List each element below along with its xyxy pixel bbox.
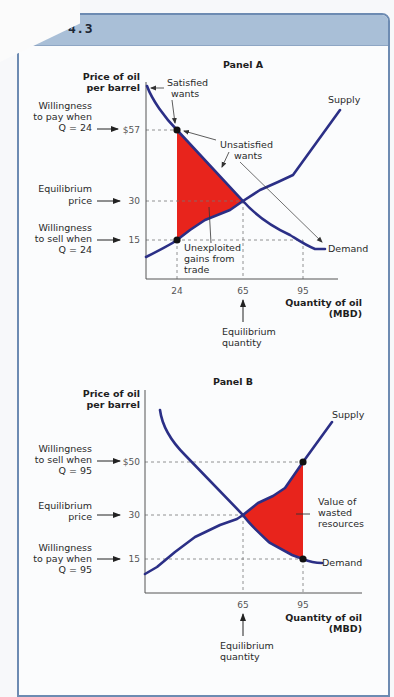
tick-y-15: 15	[129, 554, 140, 564]
tick-y-15: 15	[129, 235, 140, 245]
unsatisfied-label-2: wants	[234, 150, 262, 161]
wasted-label-2: wasted	[318, 507, 352, 518]
y-axis-label-2: per barrel	[86, 399, 140, 410]
wtp-label-3: Q = 24	[58, 122, 92, 133]
wtp-point	[173, 126, 180, 133]
supply-label: Supply	[328, 94, 361, 105]
wtp-label-3: Q = 95	[58, 564, 92, 575]
demand-label: Demand	[328, 243, 368, 254]
wts-label-2: to sell when	[35, 233, 92, 244]
tick-x-65: 65	[237, 600, 248, 610]
eqq-label-2: quantity	[220, 651, 260, 662]
unexploited-label-1: Unexploited	[184, 242, 241, 253]
x-axis-label-2: (MBD)	[329, 623, 362, 634]
unsatisfied-label-1: Unsatisfied	[220, 139, 273, 150]
tick-y-30: 30	[129, 510, 141, 520]
wts-label-1: Willingness	[38, 443, 92, 454]
wtp-label-2: to pay when	[33, 111, 92, 122]
tick-y-30: 30	[129, 196, 141, 206]
eqq-label-2: quantity	[222, 337, 262, 348]
unsatisfied-arrow-icon	[184, 131, 216, 140]
wtp-label-1: Willingness	[38, 542, 92, 553]
wts-label-2: to sell when	[35, 454, 92, 465]
wts-label-1: Willingness	[38, 222, 92, 233]
eqq-label-1: Equilibrium	[220, 640, 274, 651]
eqp-label-1: Equilibrium	[38, 183, 92, 194]
panel-b-title: Panel B	[213, 376, 253, 387]
wtp-label-1: Willingness	[38, 100, 92, 111]
panel-a: Panel A Price of oil per barrel Quantity…	[33, 59, 368, 348]
tick-x-95: 95	[297, 286, 308, 296]
wasted-label-1: Value of	[318, 496, 357, 507]
supply-label: Supply	[332, 409, 365, 420]
x-axis-label-1: Quantity of oil	[285, 612, 362, 623]
x-axis-label-1: Quantity of oil	[285, 297, 362, 308]
panel-b: Panel B Price of oil per barrel Quantity…	[33, 376, 364, 662]
unexploited-label-3: trade	[184, 264, 209, 275]
unexploited-label-2: gains from	[184, 253, 235, 264]
unsatisfied-arrow-2-icon	[222, 152, 229, 167]
wts-label-3: Q = 24	[58, 244, 92, 255]
tick-y-57: $57	[123, 125, 140, 135]
y-axis-label-1: Price of oil	[83, 388, 140, 399]
eqp-label-1: Equilibrium	[38, 500, 92, 511]
satisfied-arrow-2-icon	[172, 100, 175, 123]
wasted-label-3: resources	[318, 518, 364, 529]
x-axis-label-2: (MBD)	[329, 308, 362, 319]
satisfied-label-2: wants	[171, 88, 199, 99]
panel-a-title: Panel A	[223, 59, 264, 70]
wts-label-3: Q = 95	[58, 465, 92, 476]
tick-x-95: 95	[297, 600, 308, 610]
demand-label: Demand	[322, 557, 362, 568]
eqq-label-1: Equilibrium	[222, 326, 276, 337]
eqp-label-2: price	[68, 511, 92, 522]
tick-y-50: $50	[123, 457, 140, 467]
wts-point	[173, 236, 180, 243]
wtp-label-2: to pay when	[33, 553, 92, 564]
tick-x-65: 65	[237, 286, 248, 296]
tick-x-24: 24	[171, 286, 183, 296]
supply-curve	[145, 422, 332, 574]
y-axis-label-1: Price of oil	[83, 71, 140, 82]
eqp-label-2: price	[68, 195, 92, 206]
satisfied-label-1: Satisfied	[167, 77, 208, 88]
wtp-point	[299, 555, 306, 562]
y-axis-label-2: per barrel	[86, 82, 140, 93]
wts-point	[299, 458, 306, 465]
